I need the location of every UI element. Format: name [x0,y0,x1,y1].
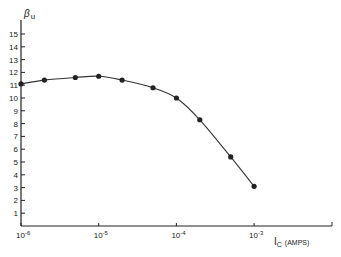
y-tick-label: 14 [9,43,18,52]
data-point [252,184,257,189]
data-point [73,75,78,80]
y-tick-label: 4 [14,171,19,180]
y-tick-label: 1 [14,209,19,218]
x-tick-label: 10-6 [16,230,31,240]
series-line [21,76,254,186]
data-point [228,154,233,159]
data-point [150,85,155,90]
chart: 123456789101112131415 10-610-510-410-3 β… [0,0,341,257]
x-axis-title: IC(AMPS) [274,236,309,248]
y-tick-label: 12 [9,68,18,77]
y-tick-label: 15 [9,30,18,39]
data-point [197,117,202,122]
data-point [42,77,47,82]
y-tick-label: 10 [9,94,18,103]
y-tick-label: 7 [14,132,19,141]
axis-titles: βuIC(AMPS) [23,8,309,248]
data-point [174,95,179,100]
y-tick-label: 9 [14,107,19,116]
axes [21,20,332,226]
y-tick-label: 3 [14,184,19,193]
data-point [96,74,101,79]
data-point [18,81,23,86]
x-tick-label: 10-5 [94,230,109,240]
y-tick-label: 5 [14,158,19,167]
y-tick-label: 11 [10,81,19,90]
y-axis-ticks: 123456789101112131415 [9,30,25,218]
y-tick-label: 6 [14,145,19,154]
y-tick-label: 13 [9,56,18,65]
data-series [18,74,256,189]
y-tick-label: 8 [14,120,19,129]
data-point [119,77,124,82]
x-tick-label: 10-3 [249,230,264,240]
y-tick-label: 2 [14,196,19,205]
y-axis-title: βu [23,8,35,21]
x-tick-label: 10-4 [171,230,186,240]
